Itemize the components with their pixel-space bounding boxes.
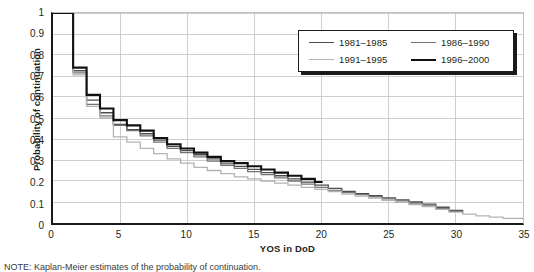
legend-label: 1991–1995 <box>339 54 387 65</box>
legend-line-swatch <box>411 59 436 61</box>
y-tick-label: 0.1 <box>8 198 44 209</box>
x-axis-title: YOS in DoD <box>51 243 524 254</box>
x-tick-label: 15 <box>239 229 269 240</box>
legend-entry: 1991–1995 <box>305 54 407 65</box>
x-tick-label: 25 <box>374 229 404 240</box>
figure-kaplan-meier-continuation: Probability of continuation 00.10.20.30.… <box>0 0 534 272</box>
x-tick-label: 30 <box>441 229 471 240</box>
series-line-1996-2000 <box>53 13 322 183</box>
y-tick-label: 0.2 <box>8 177 44 188</box>
x-tick-label: 10 <box>171 229 201 240</box>
legend-label: 1986–1990 <box>441 37 489 48</box>
x-tick-label: 20 <box>306 229 336 240</box>
legend-line-swatch <box>411 42 436 43</box>
y-tick-label: 0.5 <box>8 113 44 124</box>
x-tick-label: 35 <box>509 229 534 240</box>
legend-entry: 1996–2000 <box>407 54 509 65</box>
y-tick-label: 0.7 <box>8 70 44 81</box>
y-tick-label: 0.3 <box>8 156 44 167</box>
y-tick-label: 0.9 <box>8 28 44 39</box>
y-tick-label: 0.8 <box>8 49 44 60</box>
x-tick-label: 5 <box>104 229 134 240</box>
chart-footnote: NOTE: Kaplan-Meier estimates of the prob… <box>4 261 532 272</box>
legend-entry: 1986–1990 <box>407 37 509 48</box>
legend-line-swatch <box>309 42 334 43</box>
legend: 1981–19851986–19901991–19951996–2000 <box>298 30 514 72</box>
legend-line-swatch <box>309 59 334 60</box>
y-tick-label: 1 <box>8 7 44 18</box>
legend-label: 1996–2000 <box>441 54 489 65</box>
legend-entry: 1981–1985 <box>305 37 407 48</box>
legend-label: 1981–1985 <box>339 37 387 48</box>
legend-grid: 1981–19851986–19901991–19951996–2000 <box>305 34 509 68</box>
y-tick-label: 0.6 <box>8 92 44 103</box>
x-tick-label: 0 <box>36 229 66 240</box>
y-tick-label: 0.4 <box>8 134 44 145</box>
